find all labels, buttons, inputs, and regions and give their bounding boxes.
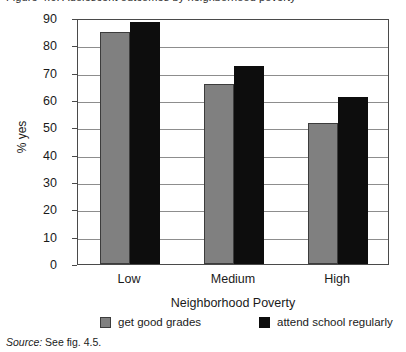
source-note-text: See fig. 4.5. bbox=[42, 336, 101, 348]
y-axis-tick bbox=[72, 46, 77, 47]
y-axis-label: 80 bbox=[0, 40, 66, 53]
y-axis-label: 50 bbox=[0, 122, 66, 135]
x-axis-title: Neighborhood Poverty bbox=[77, 296, 389, 310]
legend-swatch-icon-series-0 bbox=[100, 317, 111, 328]
legend-swatch-icon-series-1 bbox=[259, 317, 270, 328]
y-axis-tick bbox=[72, 101, 77, 102]
bar-low-series-1 bbox=[130, 22, 160, 264]
y-axis-label: 40 bbox=[0, 150, 66, 163]
plot-area bbox=[77, 19, 389, 265]
y-axis-tick bbox=[72, 210, 77, 211]
bar-high-series-0 bbox=[308, 123, 338, 264]
bar-high-series-1 bbox=[338, 97, 368, 264]
y-axis-tick bbox=[72, 74, 77, 75]
y-axis-label: 60 bbox=[0, 95, 66, 108]
y-axis-tick bbox=[72, 238, 77, 239]
legend-label-series-1: attend school regularly bbox=[277, 316, 393, 328]
y-axis-tick bbox=[72, 183, 77, 184]
legend-entry-attend-school-regularly: attend school regularly bbox=[259, 316, 393, 328]
y-axis-label: 30 bbox=[0, 177, 66, 190]
x-axis-label-low: Low bbox=[84, 272, 174, 286]
chart-legend: get good grades attend school regularly bbox=[77, 316, 389, 332]
y-axis-label: 70 bbox=[0, 68, 66, 81]
y-axis-tick bbox=[72, 128, 77, 129]
y-axis-tick bbox=[72, 19, 77, 20]
bar-medium-series-1 bbox=[234, 66, 264, 264]
source-note: Source: See fig. 4.5. bbox=[6, 336, 101, 348]
source-note-label: Source: bbox=[6, 336, 42, 348]
bar-chart: % yes Neighborhood Poverty get good grad… bbox=[0, 0, 406, 352]
x-axis-label-medium: Medium bbox=[188, 272, 278, 286]
legend-label-series-0: get good grades bbox=[118, 316, 201, 328]
x-axis-label-high: High bbox=[292, 272, 382, 286]
y-axis-tick bbox=[72, 156, 77, 157]
y-axis-label: 90 bbox=[0, 13, 66, 26]
y-axis-label: 20 bbox=[0, 204, 66, 217]
legend-entry-get-good-grades: get good grades bbox=[100, 316, 201, 328]
y-axis-label: 0 bbox=[0, 259, 66, 272]
bar-low-series-0 bbox=[100, 32, 130, 264]
bar-medium-series-0 bbox=[204, 84, 234, 264]
y-axis-label: 10 bbox=[0, 232, 66, 245]
y-axis-tick bbox=[72, 265, 77, 266]
